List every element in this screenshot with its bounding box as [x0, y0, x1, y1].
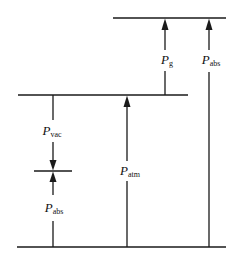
label-p-g: Pg: [160, 53, 174, 68]
label-p-vac: Pvac: [41, 124, 62, 139]
diagram-lines: [0, 0, 241, 262]
arrowhead-up-icon: [50, 172, 57, 183]
label-p-abs-left: Pabs: [44, 201, 65, 216]
label-subscript: abs: [53, 207, 64, 216]
label-symbol: P: [202, 52, 210, 67]
label-symbol: P: [120, 163, 128, 178]
arrowhead-up-icon: [162, 19, 169, 31]
arrowhead-down-icon: [50, 160, 57, 171]
label-p-abs-right: Pabs: [201, 53, 222, 68]
label-subscript: g: [169, 59, 173, 68]
arrowhead-up-icon: [206, 19, 213, 31]
pressure-diagram: Pg Pabs Pvac Pabs Patm: [0, 0, 241, 262]
label-p-atm: Patm: [119, 164, 141, 179]
arrowhead-up-icon: [124, 96, 131, 108]
label-symbol: P: [42, 123, 50, 138]
label-subscript: atm: [128, 170, 140, 179]
label-subscript: vac: [50, 130, 61, 139]
label-symbol: P: [161, 52, 169, 67]
label-symbol: P: [45, 200, 53, 215]
label-subscript: abs: [210, 59, 221, 68]
